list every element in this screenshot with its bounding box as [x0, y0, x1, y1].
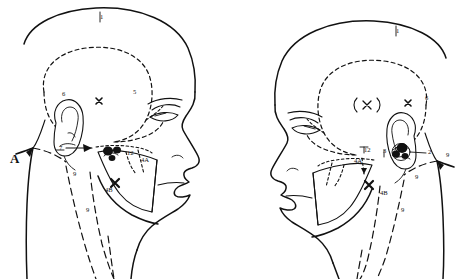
right-label-4A: 4A [354, 157, 362, 164]
figure-root: A 1 6 5 7 12 4A 4B 9 9 [0, 0, 470, 279]
left-label-1: 1 [100, 13, 103, 20]
left-label-4A: 4A [141, 156, 149, 163]
panel-label-A: A [10, 151, 20, 166]
right-label-12: 12 [364, 146, 371, 153]
anatomical-diagram: A 1 6 5 7 12 4A 4B 9 9 [0, 0, 470, 279]
left-label-4B: 4B [105, 186, 113, 193]
right-label-2: 2 [428, 148, 431, 155]
right-label-4B: 4B [380, 189, 388, 196]
left-label-12: 12 [127, 149, 134, 156]
figure-background [0, 0, 470, 279]
right-label-1: 1 [396, 27, 399, 34]
